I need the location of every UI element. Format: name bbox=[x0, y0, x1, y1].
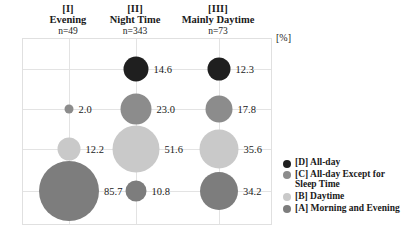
bubble-value-b-col1: 12.2 bbox=[86, 144, 104, 155]
unit-label: [%] bbox=[276, 32, 291, 43]
legend-item-4[interactable]: [A] Morning and Evening bbox=[283, 203, 411, 214]
column-n-3: n=73 bbox=[153, 26, 283, 36]
legend-item-label: [B] Daytime bbox=[295, 191, 344, 202]
bubble-value-d-col2: 14.6 bbox=[154, 64, 172, 75]
legend-marker-icon bbox=[283, 160, 291, 168]
legend-item-1[interactable]: [D] All-day bbox=[283, 157, 411, 168]
legend-item-label: [D] All-day bbox=[295, 157, 340, 168]
bubble-value-a-col3: 34.2 bbox=[243, 186, 261, 197]
legend-marker-icon bbox=[283, 205, 291, 213]
bubble-value-a-col2: 10.8 bbox=[152, 186, 170, 197]
bubble-value-a-col1: 85.7 bbox=[104, 186, 122, 197]
bubble-value-b-col3: 35.6 bbox=[244, 144, 262, 155]
bubble-d-col3 bbox=[208, 58, 231, 81]
bubble-a-col1 bbox=[39, 161, 99, 221]
column-name-3: Mainly Daytime bbox=[153, 14, 283, 25]
column-roman-3: [III] bbox=[153, 3, 283, 14]
bubble-a-col3 bbox=[200, 172, 238, 210]
bubble-b-col1 bbox=[58, 138, 81, 161]
bubble-a-col2 bbox=[126, 181, 147, 202]
bubble-value-b-col2: 51.6 bbox=[165, 144, 183, 155]
column-header-3: [III] Mainly Daytime n=73 bbox=[153, 3, 283, 36]
bubble-value-c-col1: 2.0 bbox=[79, 104, 92, 115]
bubble-c-col2 bbox=[121, 94, 152, 125]
bubble-chart-figure: [I] Evening n=49 [II] Night Time n=343 [… bbox=[0, 0, 414, 240]
bubble-value-c-col2: 23.0 bbox=[157, 104, 175, 115]
legend-marker-icon bbox=[283, 171, 291, 179]
bubble-c-col1 bbox=[65, 105, 74, 114]
bubble-value-c-col3: 17.8 bbox=[238, 104, 256, 115]
legend-item-label: [A] Morning and Evening bbox=[295, 203, 400, 214]
legend-marker-icon bbox=[283, 193, 291, 201]
bubble-b-col2 bbox=[113, 126, 160, 173]
bubble-value-d-col3: 12.3 bbox=[236, 64, 254, 75]
legend-item-3[interactable]: [B] Daytime bbox=[283, 191, 411, 202]
bubble-d-col2 bbox=[124, 57, 149, 82]
bubble-c-col3 bbox=[206, 96, 233, 123]
bubble-b-col3 bbox=[200, 130, 239, 169]
legend-item-2[interactable]: [C] All-day Except for Sleep Time bbox=[283, 169, 411, 190]
plot-area: 14.612.32.023.017.812.251.635.685.710.83… bbox=[22, 38, 272, 225]
legend-item-label: [C] All-day Except for Sleep Time bbox=[295, 169, 385, 190]
legend: [D] All-day[C] All-day Except for Sleep … bbox=[283, 157, 411, 214]
